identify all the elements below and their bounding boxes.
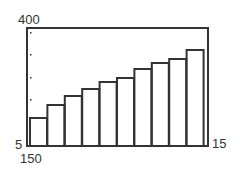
bar [30, 118, 47, 146]
bar [152, 63, 169, 146]
bar [134, 69, 151, 146]
bar [65, 96, 82, 146]
y-tick-dot [30, 32, 32, 34]
y-tick-dot [30, 77, 32, 79]
bar-chart [0, 0, 240, 173]
y-tick-dot [30, 99, 32, 101]
y-tick-dot [30, 54, 32, 56]
bar [187, 50, 204, 146]
bar [100, 82, 117, 146]
bar [82, 89, 99, 146]
bar [169, 59, 186, 146]
bar [117, 78, 134, 146]
bar [47, 105, 64, 146]
